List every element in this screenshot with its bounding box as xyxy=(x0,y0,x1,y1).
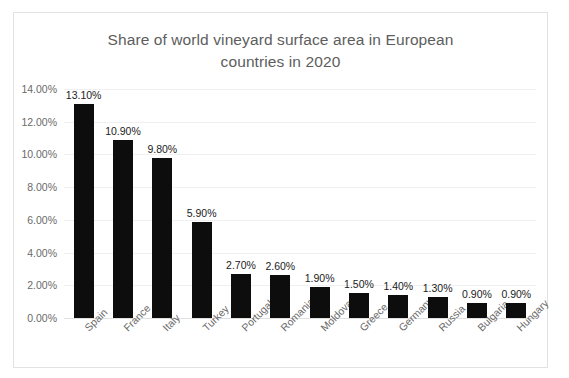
plot-area: 0.00%2.00%4.00%6.00%8.00%10.00%12.00%14.… xyxy=(64,89,536,318)
bar-group[interactable]: 1.90%Moldova xyxy=(300,89,339,318)
bar-value-label: 2.60% xyxy=(265,260,295,272)
chart-frame: Share of world vineyard surface area in … xyxy=(13,12,548,368)
bar-value-label: 10.90% xyxy=(105,125,141,137)
y-axis-tick-label: 10.00% xyxy=(21,148,57,160)
y-axis-tick-label: 8.00% xyxy=(27,181,57,193)
bar[interactable] xyxy=(74,104,94,318)
chart-title: Share of world vineyard surface area in … xyxy=(14,29,547,74)
bar-value-label: 1.90% xyxy=(305,272,335,284)
bar-value-label: 2.70% xyxy=(226,259,256,271)
chart-title-line-1: Share of world vineyard surface area in … xyxy=(14,29,547,51)
bar-value-label: 5.90% xyxy=(187,207,217,219)
bar-group[interactable]: 5.90%Turkey xyxy=(182,89,221,318)
y-axis-tick-label: 2.00% xyxy=(27,279,57,291)
bar-value-label: 1.30% xyxy=(423,282,453,294)
bar-group[interactable]: 1.40%Germany xyxy=(379,89,418,318)
y-axis-tick-label: 14.00% xyxy=(21,83,57,95)
y-axis-tick-label: 0.00% xyxy=(27,312,57,324)
bar[interactable] xyxy=(113,140,133,318)
bar-group[interactable]: 0.90%Hungary xyxy=(497,89,536,318)
bar-group[interactable]: 9.80%Italy xyxy=(143,89,182,318)
bar-value-label: 0.90% xyxy=(462,288,492,300)
bar-group[interactable]: 1.50%Greece xyxy=(339,89,378,318)
bar[interactable] xyxy=(270,275,290,318)
bar-value-label: 1.50% xyxy=(344,278,374,290)
bar-value-label: 1.40% xyxy=(383,280,413,292)
bar-value-label: 0.90% xyxy=(501,288,531,300)
y-axis-tick-label: 12.00% xyxy=(21,116,57,128)
bar-value-label: 13.10% xyxy=(66,89,102,101)
bar[interactable] xyxy=(231,274,251,318)
bar-group[interactable]: 2.60%Romania xyxy=(261,89,300,318)
bar-group[interactable]: 2.70%Portugal xyxy=(221,89,260,318)
bar[interactable] xyxy=(310,287,330,318)
bars-layer: 13.10%Spain10.90%France9.80%Italy5.90%Tu… xyxy=(64,89,536,318)
y-axis-tick-label: 4.00% xyxy=(27,247,57,259)
bar-group[interactable]: 1.30%Russia xyxy=(418,89,457,318)
y-axis-tick-label: 6.00% xyxy=(27,214,57,226)
bar-value-label: 9.80% xyxy=(147,143,177,155)
chart-title-line-2: countries in 2020 xyxy=(14,51,547,73)
bar-group[interactable]: 13.10%Spain xyxy=(64,89,103,318)
bar-group[interactable]: 10.90%France xyxy=(103,89,142,318)
bar[interactable] xyxy=(152,158,172,318)
bar-group[interactable]: 0.90%Bulgaria xyxy=(457,89,496,318)
bar[interactable] xyxy=(192,222,212,319)
